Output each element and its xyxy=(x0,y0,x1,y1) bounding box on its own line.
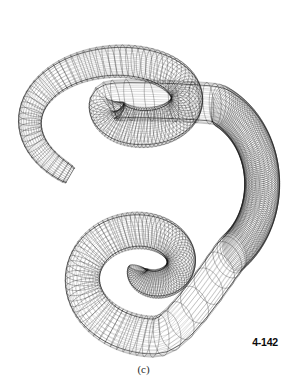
figure-number-label: 4-142 xyxy=(252,336,278,348)
wireframe-tube-illustration xyxy=(0,0,287,386)
figure-caption: (c) xyxy=(0,363,287,376)
figure-container: 4-142 (c) xyxy=(0,0,287,386)
